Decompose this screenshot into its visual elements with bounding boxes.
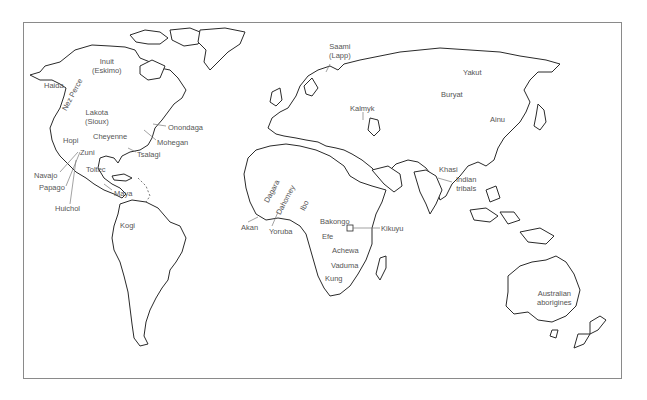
label-achewa: Achewa bbox=[332, 246, 359, 255]
label-huichol: Huichol bbox=[55, 204, 80, 213]
label-efe: Efe bbox=[322, 232, 333, 241]
label-kung: Kung bbox=[325, 274, 343, 283]
japan-landmass bbox=[534, 104, 546, 130]
label-australian-aborigines: Australianaborigines bbox=[537, 289, 572, 307]
label-onondaga: Onondaga bbox=[168, 123, 203, 132]
label-hopi: Hopi bbox=[63, 136, 78, 145]
label-vaduma: Vaduma bbox=[331, 261, 358, 270]
label-navajo: Navajo bbox=[34, 171, 57, 180]
label-maya: Maya bbox=[114, 189, 132, 198]
label-mohegan: Mohegan bbox=[157, 138, 188, 147]
label-kalmyk: Kalmyk bbox=[350, 104, 375, 113]
label-bakongo: Bakongo bbox=[320, 217, 350, 226]
label-inuit: Inuit(Eskimo) bbox=[92, 57, 122, 75]
label-kikuyu: Kikuyu bbox=[381, 224, 404, 233]
greenland-landmass bbox=[198, 28, 245, 70]
label-saami: Saami(Lapp) bbox=[329, 42, 351, 60]
label-ainu: Ainu bbox=[490, 115, 505, 124]
label-yakut: Yakut bbox=[463, 68, 482, 77]
label-tsalagi: Tsalagi bbox=[137, 150, 160, 159]
africa-landmass bbox=[244, 144, 386, 296]
label-indian-tribals: Indiantribals bbox=[456, 175, 476, 193]
label-khasi: Khasi bbox=[439, 165, 458, 174]
label-lakota: Lakota(Sioux) bbox=[85, 108, 109, 126]
label-cheyenne: Cheyenne bbox=[93, 132, 127, 141]
label-kogi: Kogi bbox=[120, 221, 135, 230]
label-papago: Papago bbox=[39, 183, 65, 192]
label-yoruba: Yoruba bbox=[269, 227, 293, 236]
label-haida: Haida bbox=[44, 81, 64, 90]
label-zuni: Zuni bbox=[80, 148, 95, 157]
label-buryat: Buryat bbox=[441, 90, 463, 99]
label-toltec: Toltec bbox=[86, 165, 106, 174]
label-akan: Akan bbox=[241, 223, 258, 232]
